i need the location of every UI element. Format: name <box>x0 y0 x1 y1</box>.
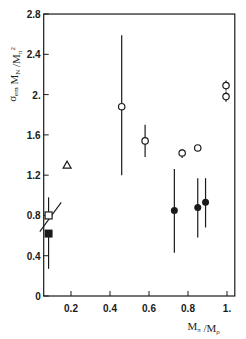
plot-border <box>44 14 235 296</box>
x-axis-ticks: 0.20.40.60.81. <box>64 291 231 314</box>
filled-circle-marker <box>202 199 209 206</box>
open-circle-marker <box>223 93 229 99</box>
scatter-chart: 00.40.81.21.62.2.42.8 0.20.40.60.81. σem… <box>0 0 246 339</box>
y-axis-title: σem MN /Mπ2 <box>6 47 24 102</box>
x-tick-label: 1. <box>223 303 232 314</box>
y-axis-label: σem MN /Mπ2 <box>6 47 24 102</box>
y-tick-label: 2. <box>32 90 41 101</box>
y-tick-label: 2.8 <box>27 9 41 20</box>
filled-circle-marker <box>194 204 201 211</box>
y-tick-label: 0.4 <box>27 251 41 262</box>
y-tick-label: 1.6 <box>27 130 41 141</box>
plot-frame <box>44 14 235 296</box>
open-circle-marker <box>223 82 229 88</box>
open-circle-marker <box>195 145 201 151</box>
open-circle-marker <box>142 138 148 144</box>
data-points <box>45 35 230 269</box>
y-tick-label: 0 <box>35 291 41 302</box>
y-tick-label: 0.8 <box>27 210 41 221</box>
x-tick-label: 0.2 <box>64 303 78 314</box>
open-triangle-marker <box>63 161 71 168</box>
y-axis-ticks: 00.40.81.21.62.2.42.8 <box>27 9 49 302</box>
filled-circle-marker <box>171 207 178 214</box>
x-tick-label: 0.8 <box>181 303 195 314</box>
open-circle-marker <box>179 150 185 156</box>
open-square-marker <box>45 212 52 219</box>
filled-square-marker <box>45 230 53 238</box>
x-tick-label: 0.4 <box>103 303 117 314</box>
x-tick-label: 0.6 <box>142 303 156 314</box>
x-axis-title: Mπ /Mρ <box>187 320 220 336</box>
x-axis-label: Mπ /Mρ <box>187 320 220 336</box>
y-tick-label: 1.2 <box>27 170 41 181</box>
open-circle-marker <box>119 103 125 109</box>
y-tick-label: 2.4 <box>27 49 41 60</box>
